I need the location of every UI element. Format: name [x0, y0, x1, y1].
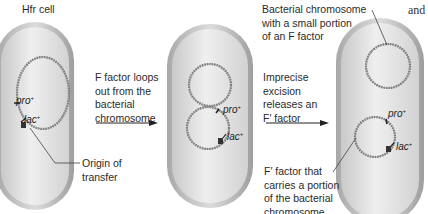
plus-sup: + — [240, 131, 244, 137]
lac-gene-label: lac+ — [227, 131, 243, 142]
f-prime-formation-diagram: Hfr cell F factor loops out from the bac… — [0, 0, 428, 214]
plus-sup: + — [30, 95, 34, 101]
origin-of-transfer-label: Origin of transfer — [82, 157, 122, 184]
pro-gene-label: pro+ — [16, 95, 34, 106]
looping-cell — [167, 24, 253, 208]
step1-caption: F factor loops out from the bacterial ch… — [95, 71, 159, 125]
plus-sup: + — [402, 108, 406, 114]
plus-sup: + — [409, 141, 413, 147]
bacterial-chromosome-label: Bacterial chromosome with a small portio… — [262, 3, 366, 44]
pro-text: pro — [223, 104, 237, 115]
plus-sup: + — [37, 114, 41, 120]
lac-gene-label: lac+ — [24, 114, 40, 125]
pro-gene-label: pro+ — [388, 108, 406, 119]
plus-sup: + — [237, 104, 241, 110]
f-prime-factor-label: F′ factor that carries a portion of the … — [264, 165, 339, 214]
hfr-cell-label: Hfr cell — [22, 3, 55, 17]
pro-text: pro — [388, 108, 402, 119]
pro-text: pro — [16, 95, 30, 106]
pro-gene-label: pro+ — [223, 104, 241, 115]
lac-text: lac — [227, 131, 240, 142]
lac-text: lac — [24, 114, 37, 125]
truncated-text: and — [408, 3, 425, 18]
step2-caption: Imprecise excision releases an F′ factor — [263, 71, 317, 125]
lac-text: lac — [396, 141, 409, 152]
lac-gene-label: lac+ — [396, 141, 412, 152]
